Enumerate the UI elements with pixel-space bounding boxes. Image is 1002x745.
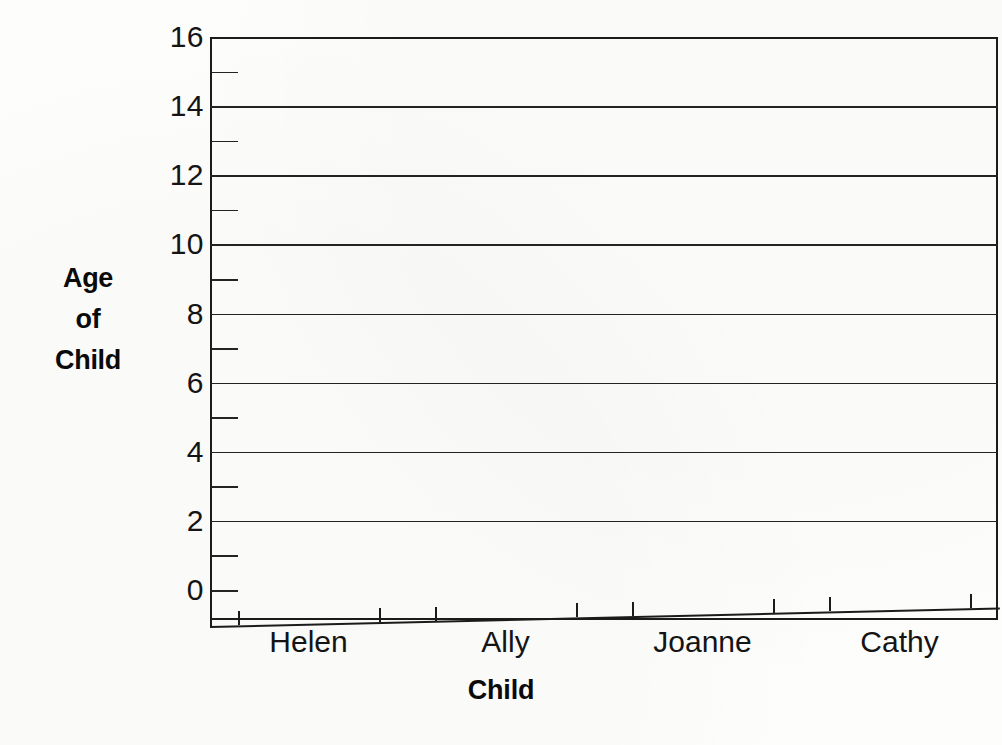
gridline-14 xyxy=(210,106,998,108)
category-label-cathy: Cathy xyxy=(790,624,1002,660)
y-tick-label-16: 16 xyxy=(120,22,204,52)
chart-figure: Age of Child 1614121086420 HelenAllyJoan… xyxy=(0,0,1002,745)
y-minor-tick-9 xyxy=(212,279,238,281)
y-minor-tick-3 xyxy=(212,486,238,488)
y-minor-tick-15 xyxy=(212,72,238,74)
category-tick-joanne-2 xyxy=(773,599,775,613)
gridline-10 xyxy=(210,244,998,246)
category-tick-ally-2 xyxy=(576,603,578,617)
category-axis-cap-right xyxy=(996,588,998,610)
plot-area xyxy=(210,37,998,620)
x-axis-title: Child xyxy=(0,675,1002,706)
y-minor-tick-0 xyxy=(212,590,238,592)
y-tick-label-12: 12 xyxy=(120,160,204,190)
plot-border-right xyxy=(996,37,998,620)
gridline-2 xyxy=(210,521,998,523)
y-tick-label-2: 2 xyxy=(120,506,204,536)
category-axis-labels: HelenAllyJoanneCathy xyxy=(0,624,1002,666)
plot-border-left xyxy=(210,37,212,620)
y-tick-label-4: 4 xyxy=(120,437,204,467)
y-tick-label-10: 10 xyxy=(120,229,204,259)
y-tick-label-6: 6 xyxy=(120,368,204,398)
y-minor-tick-1 xyxy=(212,555,238,557)
y-tick-label-0: 0 xyxy=(120,575,204,605)
gridline-8 xyxy=(210,314,998,316)
category-tick-cathy-2 xyxy=(970,594,972,608)
category-tick-joanne-1 xyxy=(632,602,634,616)
y-tick-label-8: 8 xyxy=(120,299,204,329)
gridline-4 xyxy=(210,452,998,454)
category-label-joanne: Joanne xyxy=(593,624,813,660)
gridline-6 xyxy=(210,383,998,385)
category-tick-helen-2 xyxy=(379,608,381,622)
y-minor-tick-11 xyxy=(212,210,238,212)
y-minor-tick-5 xyxy=(212,417,238,419)
category-tick-ally-1 xyxy=(435,607,437,621)
category-tick-cathy-1 xyxy=(829,597,831,611)
y-minor-tick-13 xyxy=(212,141,238,143)
category-label-helen: Helen xyxy=(199,624,419,660)
gridline-12 xyxy=(210,175,998,177)
category-label-ally: Ally xyxy=(396,624,616,660)
y-minor-tick-7 xyxy=(212,348,238,350)
y-tick-label-14: 14 xyxy=(120,91,204,121)
plot-border-top xyxy=(210,37,998,39)
